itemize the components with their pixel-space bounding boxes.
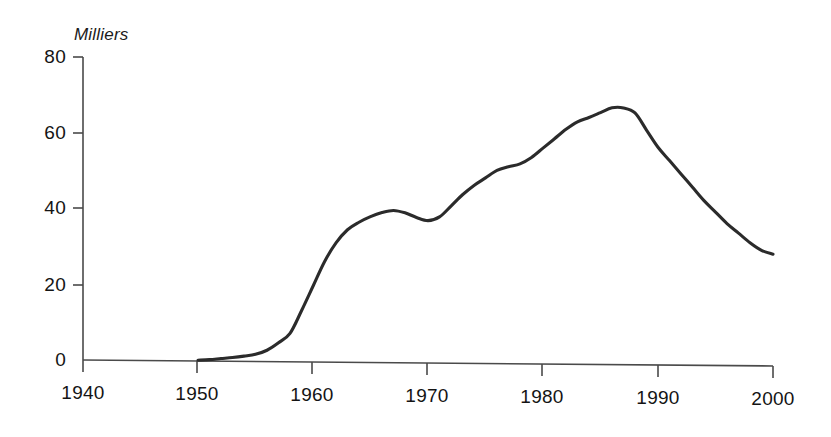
y-tick-label-20: 20 [22, 274, 66, 296]
y-tick-label-40: 40 [22, 197, 66, 219]
x-tick-label-2000: 2000 [738, 388, 808, 410]
x-tick-label-1990: 1990 [623, 387, 693, 409]
x-tick-label-1970: 1970 [392, 385, 462, 407]
x-axis-line [83, 360, 773, 366]
y-tick-label-60: 60 [22, 122, 66, 144]
x-tick-label-1980: 1980 [507, 386, 577, 408]
x-tick-label-1940: 1940 [48, 382, 118, 404]
y-tick-label-80: 80 [22, 46, 66, 68]
data-series-line [198, 107, 773, 360]
y-axis-ticks [73, 57, 83, 285]
x-tick-label-1960: 1960 [277, 384, 347, 406]
y-tick-label-0: 0 [22, 349, 66, 371]
chart-axes [73, 57, 773, 378]
chart-figure: Milliers 80 60 40 20 0 [0, 0, 831, 437]
x-tick-label-1950: 1950 [162, 383, 232, 405]
line-chart-plot [0, 0, 831, 437]
